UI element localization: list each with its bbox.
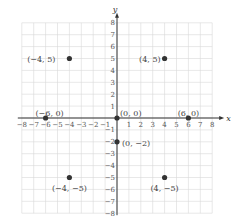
x-tick-label: −2	[88, 121, 98, 129]
x-tick-label: −8	[17, 121, 27, 129]
x-tick-label: 4	[162, 121, 167, 129]
point-label: (4, 5)	[139, 55, 161, 64]
y-tick-label: 7	[111, 31, 115, 39]
x-tick-label: −3	[76, 121, 86, 129]
point: (6, 0)	[178, 109, 200, 121]
point: (−6, 0)	[35, 109, 63, 121]
y-tick-label: −5	[105, 174, 115, 182]
y-tick-label: 4	[111, 67, 116, 75]
coordinate-plane: xy −8−7−6−5−4−3−2−112345678−8−7−6−5−4−3−…	[0, 0, 243, 218]
x-tick-label: −6	[40, 121, 51, 129]
point: (0, −2)	[114, 139, 150, 148]
point-label: (4, −5)	[150, 184, 178, 193]
point: (4, 5)	[139, 55, 167, 64]
point-label: (−4, −5)	[52, 184, 87, 193]
x-tick-label: 8	[210, 121, 214, 129]
x-tick-label: 3	[150, 121, 154, 129]
point-label: (0, −2)	[122, 139, 150, 148]
y-tick-label: −4	[105, 162, 116, 170]
y-tick-label: 6	[111, 43, 116, 51]
y-tick-label: −7	[105, 198, 115, 206]
y-tick-label: 1	[111, 103, 115, 111]
x-axis-label: x	[226, 114, 231, 123]
point-label: (0, 0)	[120, 109, 142, 118]
point-marker	[114, 139, 119, 144]
x-arrow-icon	[219, 116, 224, 120]
point-marker	[162, 175, 167, 180]
point: (−4, 5)	[27, 55, 72, 64]
y-tick-label: −2	[105, 138, 115, 146]
point-label: (−6, 0)	[35, 109, 63, 118]
point-marker	[114, 115, 119, 120]
y-tick-label: −6	[105, 186, 116, 194]
x-tick-label: 6	[186, 121, 191, 129]
y-axis-label: y	[112, 5, 118, 14]
x-tick-label: −4	[64, 121, 75, 129]
x-tick-label: −5	[52, 121, 62, 129]
y-tick-label: −1	[105, 126, 115, 134]
point-label: (−4, 5)	[27, 55, 55, 64]
y-tick-label: 8	[111, 19, 115, 27]
x-tick-label: −7	[29, 121, 39, 129]
x-tick-label: 7	[198, 121, 202, 129]
x-tick-label: 5	[174, 121, 178, 129]
point-marker	[67, 175, 72, 180]
y-tick-label: 2	[111, 91, 115, 99]
x-tick-label: 2	[139, 121, 143, 129]
point: (0, 0)	[114, 109, 141, 121]
point-marker	[162, 56, 167, 61]
y-tick-label: −8	[105, 210, 115, 218]
point-marker	[67, 56, 72, 61]
x-tick-label: 1	[127, 121, 131, 129]
point-label: (6, 0)	[178, 109, 200, 118]
y-tick-label: 3	[111, 79, 115, 87]
y-tick-label: −3	[105, 150, 115, 158]
y-tick-label: 5	[111, 55, 115, 63]
